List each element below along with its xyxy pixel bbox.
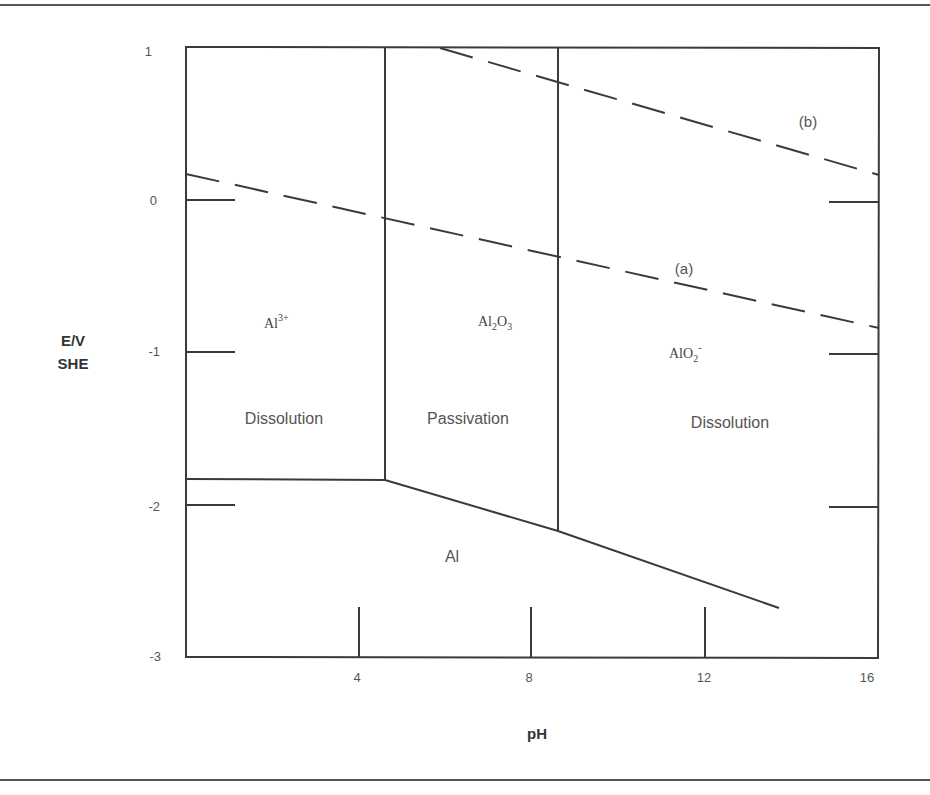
y-axis-title-line2: SHE bbox=[58, 355, 89, 372]
line-b bbox=[440, 48, 879, 175]
species-al3plus: Al3+ bbox=[264, 312, 289, 331]
y-tick-labels: 1 0 -1 -2 -3 bbox=[145, 44, 161, 664]
y-tick-minus2: -2 bbox=[148, 499, 160, 514]
x-tick-labels: 4 8 12 16 bbox=[353, 670, 874, 685]
region-passivation: Passivation bbox=[427, 410, 509, 427]
curve-label-b: (b) bbox=[799, 113, 817, 130]
x-tick-12: 12 bbox=[697, 670, 711, 685]
y-axis-ticks-left bbox=[186, 200, 235, 505]
region-dissolution-acid: Dissolution bbox=[245, 410, 323, 427]
line-a bbox=[186, 174, 879, 328]
x-tick-16: 16 bbox=[860, 670, 874, 685]
y-axis-title-line1: E/V bbox=[61, 332, 85, 349]
region-dissolution-alkaline: Dissolution bbox=[691, 414, 769, 431]
plot-frame bbox=[186, 47, 879, 658]
x-tick-4: 4 bbox=[353, 670, 360, 685]
y-tick-0: 0 bbox=[150, 193, 157, 208]
y-tick-minus3: -3 bbox=[149, 649, 161, 664]
species-al2o3: Al2O3 bbox=[478, 314, 512, 332]
x-tick-8: 8 bbox=[525, 670, 532, 685]
species-alo2minus: AlO2- bbox=[669, 342, 701, 364]
boundary-oxide-al bbox=[385, 480, 779, 608]
water-stability-lines bbox=[186, 48, 879, 328]
y-tick-minus1: -1 bbox=[148, 344, 160, 359]
pourbaix-diagram: 1 0 -1 -2 -3 4 8 12 16 E/V SHE pH Al3+ A… bbox=[0, 0, 930, 795]
y-axis-ticks-right bbox=[829, 202, 879, 507]
region-al-metal: Al bbox=[445, 548, 459, 565]
x-axis-title: pH bbox=[527, 725, 547, 742]
y-tick-1: 1 bbox=[145, 44, 152, 59]
curve-label-a: (a) bbox=[675, 260, 693, 277]
x-axis-ticks bbox=[359, 607, 705, 658]
boundary-al3-al bbox=[186, 479, 385, 480]
